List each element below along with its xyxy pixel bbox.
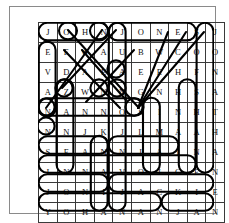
grid-cell[interactable]: E — [206, 183, 225, 203]
grid-cell[interactable]: N — [94, 143, 113, 163]
grid-cell[interactable]: J — [113, 123, 132, 143]
grid-cell[interactable]: S — [131, 103, 150, 123]
grid-cell[interactable]: A — [150, 143, 169, 163]
grid-cell[interactable]: J — [39, 183, 58, 203]
grid-cell[interactable]: O — [131, 163, 150, 183]
grid-cell[interactable]: N — [150, 23, 169, 43]
grid-cell[interactable]: N — [76, 103, 95, 123]
grid-cell[interactable]: V — [39, 63, 58, 83]
grid-cell[interactable]: F — [187, 63, 206, 83]
word-search-grid-container[interactable]: J O H N J O N E S J E E W — [38, 22, 214, 212]
grid-cell[interactable]: S — [187, 23, 206, 43]
grid-cell[interactable]: Y — [39, 203, 58, 223]
grid-cell[interactable]: H — [76, 203, 95, 223]
grid-cell[interactable]: O — [57, 203, 76, 223]
grid-cell[interactable]: K — [169, 183, 188, 203]
grid-cell[interactable]: O — [187, 43, 206, 63]
grid-cell[interactable]: Z — [57, 83, 76, 103]
grid-cell[interactable]: N — [206, 163, 225, 183]
grid-cell[interactable]: N — [57, 123, 76, 143]
grid-cell[interactable]: T — [206, 103, 225, 123]
grid-cell[interactable]: A — [76, 143, 95, 163]
grid-cell[interactable]: G — [131, 83, 150, 103]
grid-cell[interactable]: O — [57, 23, 76, 43]
grid-cell[interactable]: C — [150, 183, 169, 203]
grid-cell[interactable]: A — [57, 103, 76, 123]
grid-cell[interactable]: W — [76, 43, 95, 63]
grid-cell[interactable]: D — [57, 63, 76, 83]
grid-cell[interactable]: A — [76, 63, 95, 83]
grid-cell[interactable]: I — [169, 143, 188, 163]
grid-cell[interactable]: N — [94, 83, 113, 103]
grid-cell[interactable]: H — [187, 103, 206, 123]
grid-cell[interactable]: N — [206, 63, 225, 83]
grid-cell[interactable]: K — [94, 123, 113, 143]
grid-cell[interactable]: O — [57, 183, 76, 203]
grid-cell[interactable]: J — [39, 23, 58, 43]
grid-cell[interactable]: E — [94, 63, 113, 83]
grid-cell[interactable]: A — [169, 123, 188, 143]
grid-cell[interactable]: A — [131, 203, 150, 223]
grid-cell[interactable]: A — [187, 203, 206, 223]
grid-cell[interactable]: A — [94, 203, 113, 223]
grid-cell[interactable]: O — [206, 43, 225, 63]
grid-cell[interactable]: N — [113, 143, 132, 163]
grid-cell[interactable]: A — [206, 83, 225, 103]
grid-cell[interactable]: E — [131, 63, 150, 83]
grid-cell[interactable]: A — [94, 163, 113, 183]
grid-cell[interactable]: N — [187, 143, 206, 163]
grid-cell[interactable]: U — [113, 43, 132, 63]
grid-cell[interactable]: W — [76, 83, 95, 103]
grid-cell[interactable]: I — [150, 163, 169, 183]
grid-cell[interactable]: N — [39, 123, 58, 143]
grid-cell[interactable]: E — [169, 23, 188, 43]
grid-cell[interactable]: E — [187, 163, 206, 183]
grid-cell[interactable]: N — [150, 203, 169, 223]
grid-cell[interactable]: H — [206, 123, 225, 143]
grid-cell[interactable]: J — [169, 203, 188, 223]
grid-cell[interactable]: I — [150, 103, 169, 123]
grid-cell[interactable]: B — [131, 43, 150, 63]
grid-cell[interactable]: N — [94, 23, 113, 43]
grid-cell[interactable]: S — [39, 143, 58, 163]
word-search-grid[interactable]: J O H N J O N E S J E E W — [38, 22, 225, 223]
grid-cell[interactable]: I — [94, 183, 113, 203]
grid-cell[interactable]: E — [57, 43, 76, 63]
grid-cell[interactable]: H — [169, 63, 188, 83]
grid-cell[interactable]: O — [113, 103, 132, 123]
grid-cell[interactable]: S — [187, 83, 206, 103]
grid-cell[interactable]: N — [169, 103, 188, 123]
grid-cell[interactable]: A — [113, 63, 132, 83]
grid-cell[interactable]: A — [94, 43, 113, 63]
grid-cell[interactable]: O — [131, 23, 150, 43]
grid-cell[interactable]: G — [169, 163, 188, 183]
grid-cell[interactable]: J — [206, 23, 225, 43]
grid-cell[interactable]: M — [150, 123, 169, 143]
grid-cell[interactable]: H — [169, 83, 188, 103]
grid-cell[interactable]: E — [57, 143, 76, 163]
grid-cell[interactable]: E — [39, 43, 58, 63]
grid-cell[interactable]: J — [113, 183, 132, 203]
grid-cell[interactable]: N — [76, 183, 95, 203]
grid-cell[interactable]: N — [150, 83, 169, 103]
grid-cell[interactable]: H — [76, 23, 95, 43]
grid-cell[interactable]: N — [57, 163, 76, 183]
grid-cell[interactable]: I — [187, 183, 206, 203]
grid-cell[interactable]: N — [113, 83, 132, 103]
grid-cell[interactable]: V — [113, 163, 132, 183]
grid-cell[interactable]: N — [76, 163, 95, 183]
grid-cell[interactable]: A — [187, 123, 206, 143]
grid-cell[interactable]: A — [131, 183, 150, 203]
grid-cell[interactable]: N — [39, 103, 58, 123]
grid-cell[interactable]: A — [206, 143, 225, 163]
grid-cell[interactable]: N — [94, 103, 113, 123]
grid-cell[interactable]: I — [131, 143, 150, 163]
grid-cell[interactable]: E — [150, 63, 169, 83]
grid-cell[interactable]: C — [169, 43, 188, 63]
grid-cell[interactable]: W — [150, 43, 169, 63]
grid-cell[interactable]: L — [131, 123, 150, 143]
grid-cell[interactable]: J — [76, 123, 95, 143]
grid-cell[interactable]: N — [113, 203, 132, 223]
grid-cell[interactable]: A — [39, 83, 58, 103]
grid-cell[interactable]: N — [206, 203, 225, 223]
